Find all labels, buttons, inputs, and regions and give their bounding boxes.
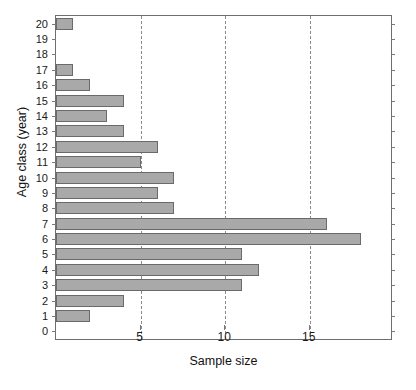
y-tick-mark: [52, 178, 56, 179]
y-tick-label: 3: [22, 280, 48, 290]
y-tick-mark: [52, 316, 56, 317]
y-tick-mark: [52, 208, 56, 209]
y-tick-mark: [52, 285, 56, 286]
y-tick-mark: [52, 270, 56, 271]
y-tick-label: 17: [22, 65, 48, 75]
y-tick-mark-right: [391, 101, 395, 102]
x-tick-mark: [224, 325, 225, 330]
y-tick-mark: [52, 54, 56, 55]
y-tick-mark-right: [391, 193, 395, 194]
y-tick-label: 16: [22, 80, 48, 90]
y-tick-mark-right: [391, 316, 395, 317]
bar: [56, 125, 124, 137]
x-tick-label: 10: [204, 330, 244, 344]
bar: [56, 141, 158, 153]
y-tick-mark: [52, 131, 56, 132]
bar: [56, 248, 242, 260]
y-tick-mark-right: [391, 301, 395, 302]
x-tick-label: 15: [289, 330, 329, 344]
y-tick-label: 0: [22, 326, 48, 336]
y-tick-mark: [52, 116, 56, 117]
y-tick-mark-right: [391, 254, 395, 255]
y-tick-mark: [52, 224, 56, 225]
y-tick-mark-right: [391, 285, 395, 286]
bar: [56, 295, 124, 307]
y-tick-label: 18: [22, 49, 48, 59]
plot-inner: 20191817161514131211109876543210: [56, 16, 391, 339]
bar: [56, 18, 73, 30]
bar: [56, 202, 174, 214]
bar: [56, 79, 90, 91]
y-tick-mark: [52, 301, 56, 302]
y-tick-mark-right: [391, 70, 395, 71]
y-tick-label: 1: [22, 311, 48, 321]
y-tick-mark-right: [391, 331, 395, 332]
y-tick-mark: [52, 254, 56, 255]
bar: [56, 95, 124, 107]
bar: [56, 156, 141, 168]
bar: [56, 187, 158, 199]
y-tick-label: 6: [22, 234, 48, 244]
bar: [56, 64, 73, 76]
y-tick-label: 14: [22, 111, 48, 121]
y-tick-label: 10: [22, 173, 48, 183]
y-tick-mark-right: [391, 54, 395, 55]
y-tick-label: 19: [22, 34, 48, 44]
y-tick-mark-right: [391, 178, 395, 179]
bar: [56, 172, 174, 184]
y-tick-label: 9: [22, 188, 48, 198]
y-tick-mark: [52, 39, 56, 40]
y-tick-label: 12: [22, 142, 48, 152]
y-tick-mark-right: [391, 39, 395, 40]
y-tick-mark-right: [391, 24, 395, 25]
y-tick-label: 7: [22, 219, 48, 229]
bar: [56, 218, 327, 230]
y-tick-label: 8: [22, 203, 48, 213]
gridline-x-15: [310, 16, 311, 339]
y-tick-mark: [52, 193, 56, 194]
y-tick-mark: [52, 24, 56, 25]
x-tick-mark: [140, 325, 141, 330]
y-tick-mark: [52, 147, 56, 148]
y-tick-mark: [52, 239, 56, 240]
x-tick-mark: [309, 325, 310, 330]
y-tick-mark: [52, 85, 56, 86]
bar: [56, 233, 361, 245]
figure-canvas: Age class (year) 20191817161514131211109…: [0, 0, 416, 390]
y-tick-mark-right: [391, 239, 395, 240]
y-tick-mark-right: [391, 162, 395, 163]
y-tick-mark-right: [391, 85, 395, 86]
y-tick-mark-right: [391, 147, 395, 148]
bar: [56, 264, 259, 276]
y-tick-mark: [52, 162, 56, 163]
y-tick-label: 4: [22, 265, 48, 275]
y-tick-label: 20: [22, 19, 48, 29]
y-tick-mark-right: [391, 116, 395, 117]
bar: [56, 279, 242, 291]
y-tick-label: 13: [22, 126, 48, 136]
y-tick-mark-right: [391, 131, 395, 132]
bar: [56, 110, 107, 122]
y-tick-label: 11: [22, 157, 48, 167]
y-tick-mark-right: [391, 208, 395, 209]
y-tick-label: 15: [22, 96, 48, 106]
y-tick-mark: [52, 101, 56, 102]
x-tick-label: 5: [120, 330, 160, 344]
x-axis-title: Sample size: [55, 354, 392, 368]
y-tick-mark: [52, 331, 56, 332]
plot-area: 20191817161514131211109876543210: [55, 15, 392, 340]
y-tick-label: 2: [22, 296, 48, 306]
y-tick-mark-right: [391, 224, 395, 225]
y-tick-label: 5: [22, 249, 48, 259]
y-tick-mark: [52, 70, 56, 71]
bar: [56, 310, 90, 322]
y-tick-mark-right: [391, 270, 395, 271]
